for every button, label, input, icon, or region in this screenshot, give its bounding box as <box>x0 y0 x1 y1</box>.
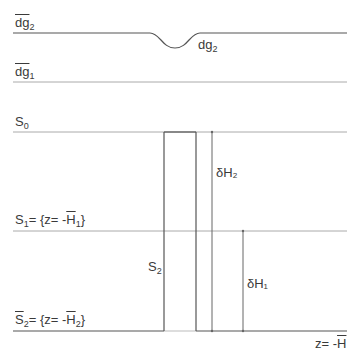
label-dh1: δH₁ <box>247 277 268 290</box>
label-s1: S1= {z= -H1} <box>15 213 85 229</box>
dh1-arrow-top-dot <box>242 230 244 232</box>
label-s2-bar: S2= {z= -H2} <box>15 313 85 329</box>
label-dg2: dg2 <box>198 38 217 54</box>
label-dh2: δH₂ <box>216 166 238 179</box>
label-s2: S2 <box>148 260 162 276</box>
label-s0: S0 <box>15 115 29 131</box>
dh2-arrow-bottom-dot <box>211 330 213 332</box>
label-dg2-bar: dg2 <box>15 16 34 32</box>
dh2-arrow-top-dot <box>211 131 213 133</box>
diagram-canvas <box>0 0 361 362</box>
label-bottom: z= -H <box>315 337 346 350</box>
surface-dg2-line <box>13 33 347 48</box>
dh1-arrow-bottom-dot <box>242 330 244 332</box>
label-dg1-bar: dg1 <box>15 65 34 81</box>
